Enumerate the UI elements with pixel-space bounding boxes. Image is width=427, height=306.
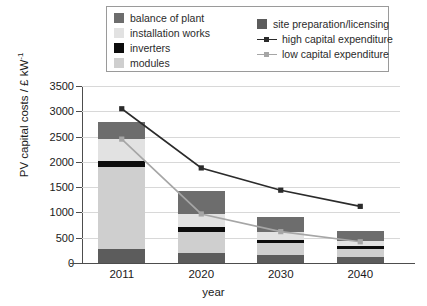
x-axis-title: year [0, 286, 427, 298]
y-axis-tick-label: 1000 [0, 206, 74, 218]
bar-stack [178, 86, 225, 263]
y-axis-tick-label: 3500 [0, 80, 74, 92]
legend-column-left: balance of plant installation works inve… [114, 11, 210, 71]
bar-segment [98, 161, 145, 168]
bar-segment [257, 232, 304, 240]
chart-figure: balance of plant installation works inve… [0, 0, 427, 306]
legend-item-modules: modules [114, 56, 210, 70]
y-axis-tick-label: 500 [0, 232, 74, 244]
data-line [122, 109, 361, 207]
x-axis-line [70, 263, 415, 264]
legend-label: balance of plant [130, 13, 204, 24]
x-axis-tick-label: 2030 [251, 268, 311, 280]
legend-swatch-icon [257, 19, 267, 29]
legend-item-inverters: inverters [114, 41, 210, 55]
bar-segment [98, 167, 145, 249]
x-axis-tick-label: 2040 [330, 268, 390, 280]
y-axis-tick-label: 1500 [0, 181, 74, 193]
legend-label: inverters [130, 43, 170, 54]
bar-segment [178, 191, 225, 214]
y-axis-tick-label: 0 [0, 257, 74, 269]
legend-line-marker-icon [257, 34, 277, 44]
data-line [122, 139, 361, 242]
bar-segment [337, 231, 384, 241]
legend-item-high-capex: high capital expenditure [257, 32, 393, 46]
bar-segment [337, 249, 384, 258]
legend-item-balance-of-plant: balance of plant [114, 11, 210, 25]
bar-segment [178, 232, 225, 253]
legend-swatch-icon [114, 28, 124, 38]
bar-stack [98, 86, 145, 263]
y-axis-tick-label: 3000 [0, 105, 74, 117]
legend-item-installation-works: installation works [114, 26, 210, 40]
bar-stack [337, 86, 384, 263]
bar-segment [178, 253, 225, 263]
bar-segment [178, 227, 225, 232]
bar-segment [337, 246, 384, 249]
x-axis-tick-label: 2020 [171, 268, 231, 280]
bar-segment [257, 243, 304, 256]
legend-item-low-capex: low capital expenditure [257, 47, 393, 61]
legend-label: installation works [130, 28, 210, 39]
legend-label: high capital expenditure [282, 34, 393, 45]
bar-segment [178, 214, 225, 227]
bar-segment [257, 240, 304, 243]
bar-segment [98, 139, 145, 161]
y-axis-tick-label: 2000 [0, 156, 74, 168]
bar-segment [98, 249, 145, 263]
legend-label: modules [130, 58, 170, 69]
legend-swatch-icon [114, 43, 124, 53]
bar-segment [257, 255, 304, 263]
legend-label: low capital expenditure [282, 49, 389, 60]
bar-segment [337, 257, 384, 263]
y-axis-tick-label: 2500 [0, 131, 74, 143]
legend-line-marker-icon [257, 49, 277, 59]
bar-stack [257, 86, 304, 263]
x-axis-tick-label: 2011 [92, 268, 152, 280]
legend-label: site preparation/licensing [273, 19, 389, 30]
legend-item-site-preparation: site preparation/licensing [257, 17, 393, 31]
plot-area [82, 86, 400, 263]
bar-segment [337, 241, 384, 247]
bar-segment [98, 122, 145, 139]
legend-swatch-icon [114, 58, 124, 68]
bar-segment [257, 217, 304, 231]
legend-swatch-icon [114, 13, 124, 23]
legend-column-right: site preparation/licensing high capital … [257, 17, 393, 62]
chart-legend: balance of plant installation works inve… [106, 6, 389, 72]
